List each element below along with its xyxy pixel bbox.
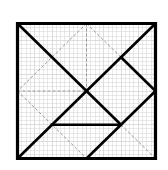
tangram-diagram [0, 0, 168, 170]
